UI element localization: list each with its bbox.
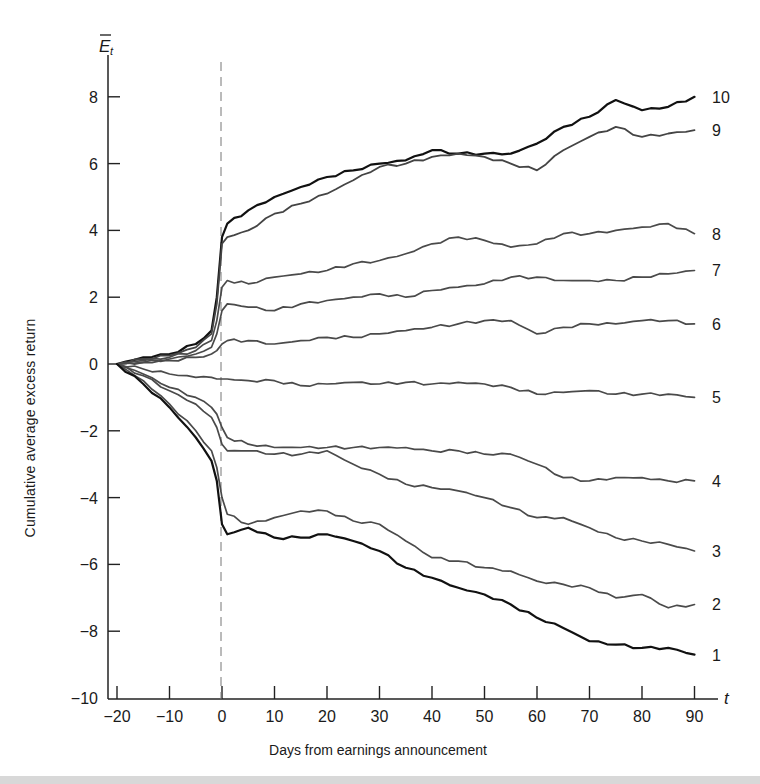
y-tick-label: 8 bbox=[89, 89, 98, 106]
x-tick-label: 20 bbox=[318, 708, 336, 725]
axes: 86420−2−4−6−8−10−20−10010203040506070809… bbox=[71, 35, 730, 725]
y-tick-label: 6 bbox=[89, 156, 98, 173]
series-line-5 bbox=[117, 364, 695, 397]
x-tick-label: 10 bbox=[266, 708, 284, 725]
y-tick-label: 0 bbox=[89, 356, 98, 373]
series-label-6: 6 bbox=[712, 316, 721, 333]
y-axis-symbol-subscript: t bbox=[110, 45, 114, 57]
y-tick-label: −2 bbox=[80, 423, 98, 440]
series-label-3: 3 bbox=[712, 543, 721, 560]
series-label-1: 1 bbox=[712, 647, 721, 664]
series-line-3 bbox=[117, 364, 695, 551]
x-tick-label: 60 bbox=[528, 708, 546, 725]
series-line-7 bbox=[117, 271, 695, 365]
series-lines bbox=[117, 97, 695, 655]
x-tick-label: 90 bbox=[686, 708, 704, 725]
series-label-7: 7 bbox=[712, 262, 721, 279]
y-tick-label: 2 bbox=[89, 289, 98, 306]
x-tick-label: −20 bbox=[103, 708, 130, 725]
x-tick-label: 30 bbox=[371, 708, 389, 725]
series-labels: 10987654321 bbox=[712, 89, 730, 664]
x-axis-title: Days from earnings announcement bbox=[218, 742, 538, 758]
y-tick-label: 4 bbox=[89, 222, 98, 239]
y-tick-label: −10 bbox=[71, 690, 98, 707]
x-tick-label: 40 bbox=[423, 708, 441, 725]
series-line-10 bbox=[117, 97, 695, 364]
series-label-9: 9 bbox=[712, 122, 721, 139]
series-label-2: 2 bbox=[712, 596, 721, 613]
series-label-5: 5 bbox=[712, 389, 721, 406]
series-line-1 bbox=[117, 364, 695, 655]
series-label-4: 4 bbox=[712, 473, 721, 490]
chart-canvas: 86420−2−4−6−8−10−20−10010203040506070809… bbox=[0, 0, 760, 784]
y-tick-label: −6 bbox=[80, 556, 98, 573]
series-label-8: 8 bbox=[712, 226, 721, 243]
series-label-10: 10 bbox=[712, 89, 730, 106]
x-tick-label: 80 bbox=[633, 708, 651, 725]
y-axis-title: Cumulative average excess return bbox=[22, 303, 38, 553]
y-tick-label: −4 bbox=[80, 490, 98, 507]
x-tick-label: 50 bbox=[476, 708, 494, 725]
x-axis-symbol: t bbox=[724, 689, 730, 708]
x-tick-label: −10 bbox=[156, 708, 183, 725]
series-line-6 bbox=[117, 320, 695, 364]
x-tick-label: 70 bbox=[581, 708, 599, 725]
series-line-8 bbox=[117, 224, 695, 364]
series-line-9 bbox=[117, 127, 695, 364]
y-tick-label: −8 bbox=[80, 623, 98, 640]
x-tick-label: 0 bbox=[218, 708, 227, 725]
